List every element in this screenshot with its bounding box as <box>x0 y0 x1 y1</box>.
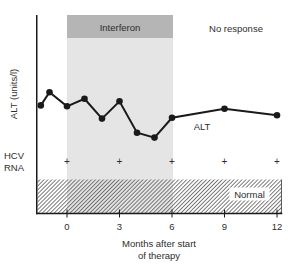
alt-data-point <box>169 115 176 122</box>
normal-label: Normal <box>234 189 265 200</box>
hcv-interferon-alt-chart: Interferon No response 036912 +++++ Norm… <box>0 0 292 267</box>
hcv-rna-positive-marker: + <box>274 156 280 167</box>
x-tick-label: 0 <box>64 221 69 232</box>
hcv-rna-positive-marker: + <box>64 156 70 167</box>
x-axis-label-line1: Months after start <box>122 238 196 249</box>
interferon-label: Interferon <box>100 22 141 33</box>
x-tick-label: 6 <box>169 221 174 232</box>
x-tick-label: 3 <box>117 221 122 232</box>
hcv-rna-positive-marker: + <box>117 156 123 167</box>
hcv-row-label-line2: RNA <box>4 162 25 173</box>
alt-data-point <box>46 89 53 96</box>
alt-data-point <box>221 105 228 112</box>
alt-data-point <box>38 102 45 109</box>
hcv-row-label-line1: HCV <box>4 150 25 161</box>
alt-data-point <box>134 129 141 136</box>
alt-data-point <box>81 96 88 103</box>
hcv-rna-positive-marker: + <box>222 156 228 167</box>
alt-series-label: ALT <box>194 121 211 132</box>
chart-svg: Interferon No response 036912 +++++ Norm… <box>0 0 292 267</box>
alt-data-point <box>116 98 123 105</box>
y-axis-label: ALT (units/l) <box>8 69 19 119</box>
x-tick-label: 9 <box>222 221 227 232</box>
x-axis-label-line2: of therapy <box>138 250 180 261</box>
alt-data-point <box>64 103 71 110</box>
alt-data-point <box>151 134 158 141</box>
x-tick-labels: 036912 <box>64 221 282 232</box>
alt-data-point <box>274 112 281 119</box>
hcv-rna-positive-marker: + <box>169 156 175 167</box>
x-tick-label: 12 <box>272 221 283 232</box>
no-response-label: No response <box>209 23 263 34</box>
alt-data-point <box>99 115 106 122</box>
